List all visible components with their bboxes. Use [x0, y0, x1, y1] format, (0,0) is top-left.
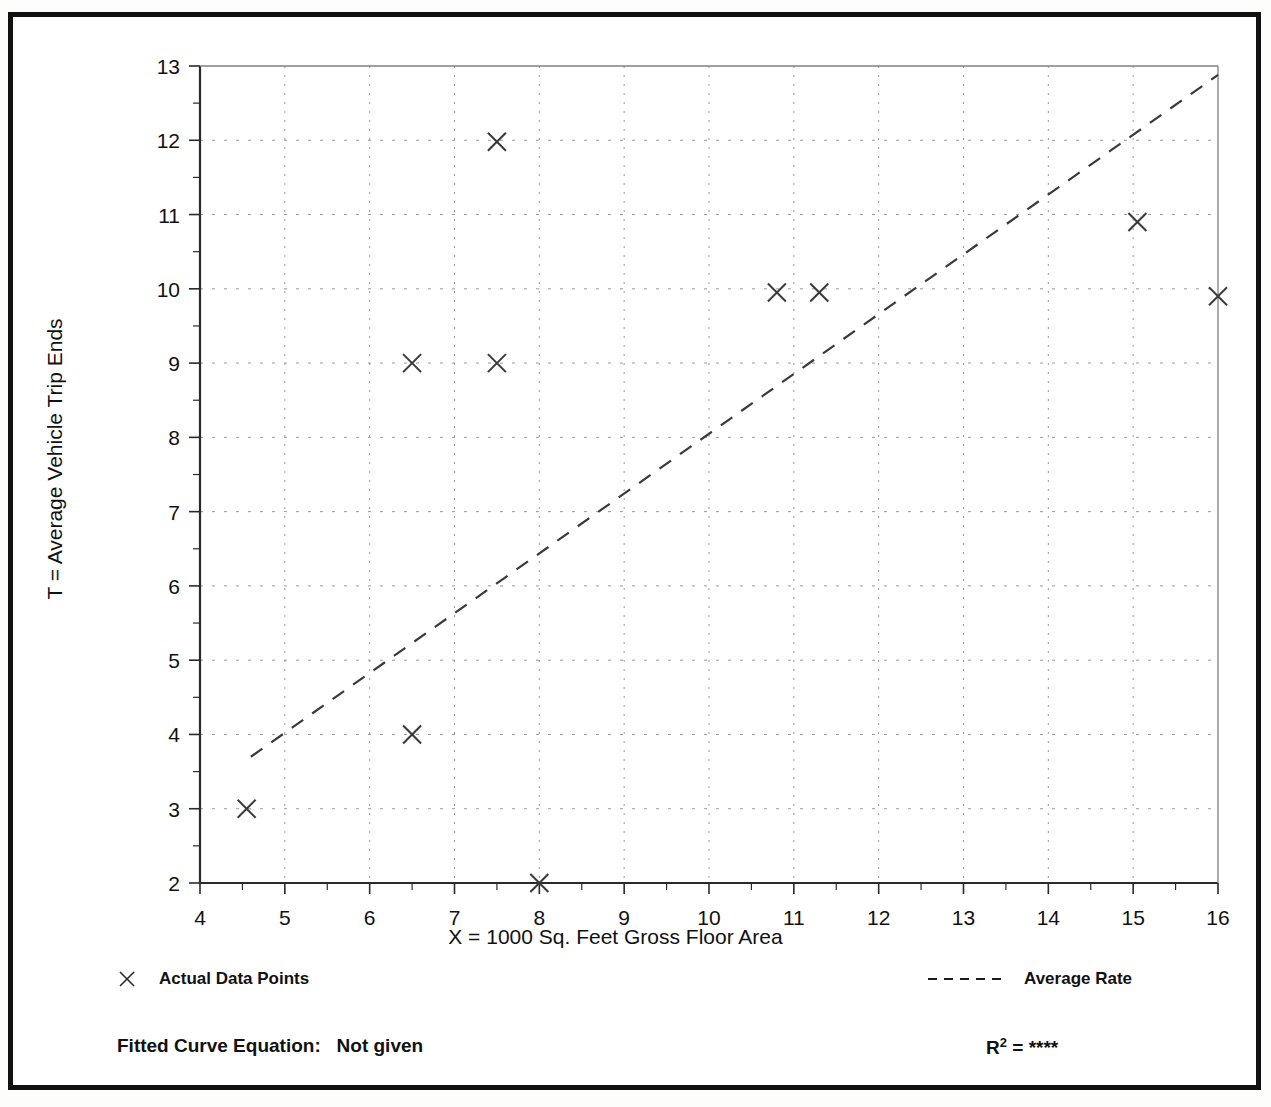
chart-page: 456789101112131415162345678910111213 T =… — [0, 0, 1271, 1107]
r-squared-label: R — [986, 1037, 1000, 1058]
minor-ticks-group — [193, 103, 1176, 890]
y-tick-label: 4 — [168, 723, 180, 746]
y-tick-label: 13 — [157, 55, 180, 78]
y-tick-label: 10 — [157, 278, 180, 301]
y-tick-label: 5 — [168, 649, 180, 672]
data-point-marker — [238, 800, 256, 818]
data-point-marker — [488, 133, 506, 151]
y-tick-label: 12 — [157, 129, 180, 152]
r-squared-annotation: R2 = **** — [986, 1035, 1058, 1059]
y-tick-label: 9 — [168, 352, 180, 375]
page-title-fragment — [0, 0, 1271, 12]
y-tick-label: 3 — [168, 798, 180, 821]
chart-canvas: 456789101112131415162345678910111213 T =… — [13, 17, 1256, 1085]
r-squared-equals: = — [1012, 1037, 1023, 1058]
fitted-curve-equation-value: Not given — [337, 1035, 424, 1056]
data-point-marker — [1128, 213, 1146, 231]
y-tick-label: 8 — [168, 426, 180, 449]
fitted-curve-equation-label: Fitted Curve Equation: — [117, 1035, 321, 1056]
legend-label-average-rate: Average Rate — [1024, 969, 1132, 989]
x-marker-icon — [117, 969, 137, 989]
chart-frame: 456789101112131415162345678910111213 T =… — [8, 12, 1261, 1090]
legend-actual-data-points: Actual Data Points — [117, 969, 309, 989]
y-tick-label: 6 — [168, 575, 180, 598]
average-rate-line — [251, 75, 1218, 757]
y-axis-title: T = Average Vehicle Trip Ends — [43, 199, 67, 719]
tick-labels-group: 456789101112131415162345678910111213 — [157, 55, 1230, 929]
r-squared-value: **** — [1029, 1037, 1059, 1058]
data-point-marker — [810, 284, 828, 302]
dashed-line-icon — [928, 978, 1006, 980]
y-tick-label: 7 — [168, 501, 180, 524]
x-axis-title: X = 1000 Sq. Feet Gross Floor Area — [13, 925, 1218, 949]
legend-average-rate: Average Rate — [928, 969, 1132, 989]
data-point-marker — [768, 284, 786, 302]
gridlines-group — [200, 66, 1218, 883]
fitted-curve-equation: Fitted Curve Equation: Not given — [117, 1035, 423, 1057]
r-squared-exponent: 2 — [1000, 1035, 1007, 1050]
average-rate-trendline — [251, 75, 1218, 757]
y-tick-label: 2 — [168, 872, 180, 895]
y-tick-label: 11 — [158, 204, 180, 227]
data-points-group — [238, 133, 1227, 892]
legend-label-actual-data-points: Actual Data Points — [159, 969, 309, 989]
major-ticks-group — [189, 66, 1218, 894]
